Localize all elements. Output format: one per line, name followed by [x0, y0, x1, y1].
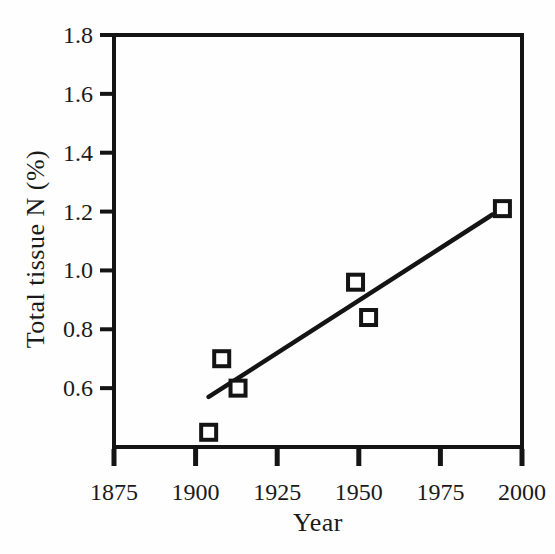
plot-frame — [114, 35, 522, 447]
x-tick-label: 1875 — [90, 479, 138, 505]
y-axis-title: Total tissue N (%) — [21, 150, 51, 349]
x-axis-title: Year — [114, 508, 522, 538]
x-tick-label: 2000 — [498, 479, 546, 505]
x-tick-label: 1950 — [335, 479, 383, 505]
y-tick-label: 0.6 — [63, 375, 93, 401]
trend-line — [209, 215, 493, 397]
y-tick-label: 1.2 — [63, 199, 93, 225]
plot-canvas: 0.60.81.01.21.41.61.81875190019251950197… — [0, 0, 555, 554]
data-point-marker — [361, 310, 376, 325]
y-tick-label: 1.4 — [63, 140, 93, 166]
x-tick-label: 1925 — [253, 479, 301, 505]
x-tick-label: 1900 — [172, 479, 220, 505]
data-point-marker — [495, 201, 510, 216]
data-point-marker — [348, 275, 363, 290]
data-point-marker — [231, 381, 246, 396]
scatter-plot-figure: 0.60.81.01.21.41.61.81875190019251950197… — [0, 0, 555, 554]
y-tick-label: 1.8 — [63, 22, 93, 48]
y-tick-label: 1.0 — [63, 257, 93, 283]
x-tick-label: 1975 — [416, 479, 464, 505]
data-point-marker — [214, 351, 229, 366]
y-tick-label: 1.6 — [63, 81, 93, 107]
data-point-marker — [201, 425, 216, 440]
y-tick-label: 0.8 — [63, 316, 93, 342]
